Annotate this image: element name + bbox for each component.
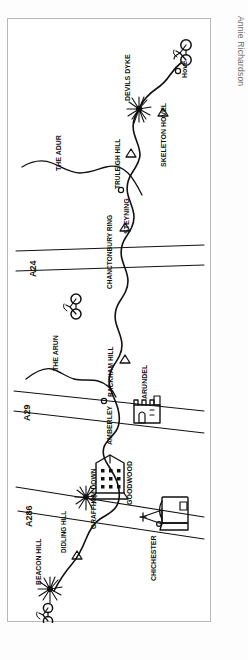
label-skeleton-hovel: SKELETON HOVEL bbox=[160, 102, 167, 167]
road-a286-b bbox=[18, 511, 204, 539]
label-road-a286: A286 bbox=[24, 505, 34, 527]
town-dot-hove bbox=[175, 68, 180, 73]
label-truleigh-hill: TRULEIGH HILL bbox=[114, 139, 121, 189]
label-devils-dyke: DEVILS DYKE bbox=[124, 54, 131, 101]
label-steyning: STEYNING bbox=[123, 198, 130, 234]
artist-credit: Annie Richardson bbox=[232, 16, 246, 136]
label-road-a29: A29 bbox=[22, 404, 32, 421]
label-beacon-hill: BEACON HILL bbox=[35, 539, 42, 585]
hill-marker-truleigh bbox=[126, 149, 136, 157]
bicycle-icon-midroute bbox=[63, 294, 81, 319]
map-frame: Hove DEVILS DYKE SKELETON HOVEL TRULEIGH… bbox=[7, 18, 211, 622]
bicycle-icon-start bbox=[36, 603, 52, 623]
label-graffham-down: GRAFFHAM DOWN bbox=[90, 468, 97, 529]
label-amberley: AMBERLEY bbox=[106, 405, 113, 445]
label-the-arun: THE ARUN bbox=[52, 335, 59, 371]
label-hove: Hove bbox=[181, 61, 188, 78]
sketch-map-figure: Hove DEVILS DYKE SKELETON HOVEL TRULEIGH… bbox=[0, 0, 248, 660]
label-the-adur: THE ADUR bbox=[55, 135, 62, 171]
river-arun bbox=[26, 368, 116, 397]
map-drawing: Hove DEVILS DYKE SKELETON HOVEL TRULEIGH… bbox=[8, 19, 212, 623]
grandstand-icon bbox=[92, 455, 128, 499]
label-didling-hill: DIDLING HILL bbox=[60, 511, 67, 553]
label-chanctonbury-ring: CHANCTONBURY RING bbox=[106, 215, 113, 289]
label-arundel: ARUNDEL bbox=[141, 364, 148, 399]
label-road-a24: A24 bbox=[28, 260, 38, 277]
label-chichester: CHICHESTER bbox=[150, 535, 157, 581]
label-rackham-hill: RACKHAM HILL bbox=[107, 346, 114, 397]
hill-marker-rackham bbox=[120, 355, 130, 363]
label-goodwood: GOODWOOD bbox=[126, 461, 133, 505]
castle-icon bbox=[134, 396, 160, 423]
